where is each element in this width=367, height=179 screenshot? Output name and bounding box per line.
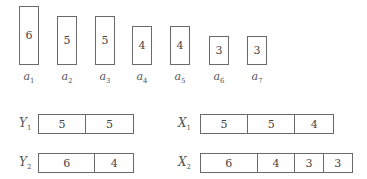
item-label: a2 <box>52 70 82 85</box>
bin-segment: 6 <box>39 154 95 172</box>
item-box-a2: 5 <box>57 16 77 65</box>
item-size: 5 <box>102 34 109 47</box>
bin-segment: 3 <box>295 154 323 172</box>
item-size: 3 <box>254 44 261 57</box>
item-label: a3 <box>90 70 120 85</box>
bin-segment: 4 <box>258 154 296 172</box>
bin-segment: 6 <box>201 154 258 172</box>
item-label: a4 <box>127 70 157 85</box>
item-label: a6 <box>204 70 234 85</box>
bin-X1: 554 <box>200 114 334 134</box>
bin-X2: 6433 <box>200 153 353 173</box>
item-box-a1: 6 <box>19 6 39 65</box>
bin-label-Y1: Y1 <box>19 116 31 132</box>
item-box-a4: 4 <box>132 26 152 65</box>
item-size: 4 <box>177 39 184 52</box>
bin-label-X2: X2 <box>178 155 191 171</box>
bin-segment: 5 <box>201 115 248 133</box>
item-size: 6 <box>26 29 33 42</box>
bin-segment: 4 <box>95 154 133 172</box>
bin-segment: 5 <box>39 115 86 133</box>
bin-segment: 4 <box>295 115 333 133</box>
bin-Y1: 55 <box>38 114 134 134</box>
item-size: 3 <box>216 44 223 57</box>
item-box-a6: 3 <box>209 36 229 65</box>
item-size: 4 <box>139 39 146 52</box>
item-label: a1 <box>14 70 44 85</box>
item-label: a5 <box>165 70 195 85</box>
bin-label-X1: X1 <box>178 116 191 132</box>
item-label: a7 <box>242 70 272 85</box>
bin-segment: 5 <box>86 115 133 133</box>
bin-Y2: 64 <box>38 153 134 173</box>
item-box-a3: 5 <box>95 16 115 65</box>
item-box-a5: 4 <box>170 26 190 65</box>
bin-segment: 5 <box>248 115 295 133</box>
bin-segment: 3 <box>324 154 352 172</box>
bin-label-Y2: Y2 <box>19 155 31 171</box>
item-box-a7: 3 <box>247 36 267 65</box>
item-size: 5 <box>64 34 71 47</box>
